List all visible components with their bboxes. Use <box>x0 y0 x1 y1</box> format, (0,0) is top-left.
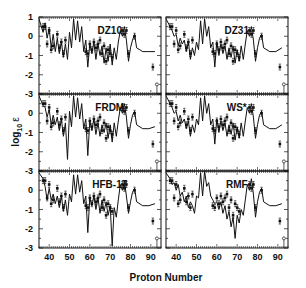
x-tick-label: 50 <box>191 252 201 262</box>
panel-dz31: DZ31 <box>166 17 288 94</box>
panel-label: RMF <box>226 179 248 190</box>
y-tick-label: -3 <box>25 89 33 99</box>
y-tick-label: 0 <box>28 185 33 195</box>
x-tick-label: 90 <box>273 252 283 262</box>
x-axis-title: Proton Number <box>130 272 203 283</box>
panel-label: FRDM <box>95 102 124 113</box>
panel-rmf: 405060708090RMF <box>166 171 288 262</box>
figure: 10-1-2-3DZ10DZ310-1-2-3FRDMWS*0-1-2-3405… <box>0 0 306 288</box>
x-tick-label: 90 <box>146 252 156 262</box>
y-tick-label: -2 <box>25 147 33 157</box>
x-tick-label: 50 <box>64 252 74 262</box>
y-axis-title: log10ε <box>10 117 23 147</box>
y-tick-label: 1 <box>28 12 33 22</box>
y-tick-label: -1 <box>25 51 33 61</box>
y-tick-label: 0 <box>28 31 33 41</box>
y-tick-label: -1 <box>25 205 33 215</box>
x-tick-label: 40 <box>44 252 54 262</box>
x-tick-label: 60 <box>212 252 222 262</box>
y-tick-label: -2 <box>25 70 33 80</box>
panel-dz10: 10-1-2-3DZ10 <box>25 12 161 99</box>
y-tick-label: 0 <box>28 108 33 118</box>
y-tick-label: -1 <box>25 128 33 138</box>
x-tick-label: 80 <box>252 252 262 262</box>
panel-label: HFB-17 <box>92 179 127 190</box>
y-tick-label: -3 <box>25 243 33 253</box>
x-tick-label: 60 <box>85 252 95 262</box>
y-tick-label: -3 <box>25 166 33 176</box>
experimental-points <box>169 101 281 147</box>
y-tick-label: -2 <box>25 224 33 234</box>
panel-label: DZ10 <box>98 25 123 36</box>
panel-ws-: WS* <box>166 94 288 171</box>
x-tick-label: 70 <box>232 252 242 262</box>
panel-hfb-17: 0-1-2-3405060708090HFB-17 <box>25 171 161 262</box>
x-tick-label: 80 <box>125 252 135 262</box>
x-tick-label: 40 <box>171 252 181 262</box>
panel-label: WS* <box>227 102 247 113</box>
panel-label: DZ31 <box>225 25 250 36</box>
x-tick-label: 70 <box>105 252 115 262</box>
panel-frdm: 0-1-2-3FRDM <box>25 94 161 176</box>
